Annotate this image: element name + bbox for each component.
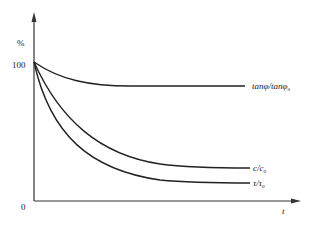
origin-label: 0 (21, 202, 26, 212)
chart: % 100 0 t tanφ/tanφ0 c/c0 τ/τ0 (0, 0, 309, 230)
label-tau-over-tau0: τ/τ0 (253, 178, 265, 189)
curve-tau-over-tau0 (34, 62, 250, 183)
y-tick-100: 100 (12, 60, 26, 70)
x-axis-label: t (282, 206, 285, 216)
label-tan-phi: tanφ/tanφ0 (252, 81, 290, 92)
x-axis (34, 199, 301, 204)
y-unit-label: % (17, 38, 25, 48)
curve-tan-phi (34, 62, 245, 86)
y-axis (32, 12, 37, 201)
label-c-over-c0: c/c0 (253, 163, 267, 174)
